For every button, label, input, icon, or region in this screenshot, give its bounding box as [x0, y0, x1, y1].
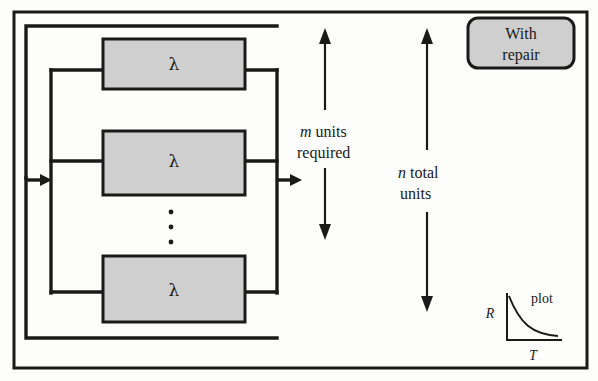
with-repair-line1: With [505, 25, 536, 42]
block-middle-label: λ [169, 151, 180, 171]
n-total-label-line2: units [400, 185, 431, 202]
m-units-label-line1: m units [300, 123, 347, 140]
inset-y-axis-label: R [485, 306, 495, 321]
n-symbol: n [398, 164, 406, 181]
with-repair-line2: repair [502, 46, 540, 64]
n-total-rest: total [406, 164, 439, 181]
with-repair-badge: With repair [468, 18, 574, 68]
diagram-canvas: λ λ λ m units required [0, 0, 598, 381]
block-bottom-label: λ [169, 280, 180, 300]
block-top: λ [103, 39, 245, 89]
m-symbol: m [300, 123, 312, 140]
block-middle: λ [103, 131, 245, 195]
ellipsis-dot [169, 225, 174, 230]
n-total-label-line1: n total [398, 164, 439, 181]
reliability-block-diagram: λ λ λ m units required [0, 0, 598, 381]
block-top-label: λ [169, 54, 180, 74]
m-units-label-line2: required [297, 144, 350, 162]
m-units-rest: units [312, 123, 347, 140]
ellipsis-dot [169, 240, 174, 245]
inset-caption: plot [531, 291, 553, 306]
inset-x-axis-label: T [529, 348, 538, 363]
block-bottom: λ [103, 256, 245, 322]
ellipsis-dot [169, 210, 174, 215]
